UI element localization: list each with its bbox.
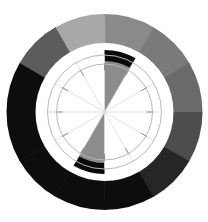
color-wheel-diagram [0, 0, 208, 222]
inner-disc [44, 50, 166, 174]
